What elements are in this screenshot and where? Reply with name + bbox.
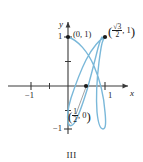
y-tick-label-neg1: −1: [53, 124, 62, 133]
x-axis-label: x: [130, 89, 134, 98]
fraction-sqrt3-over-2: √32: [112, 23, 122, 40]
annotation-point-0-1: (0, 1): [73, 30, 91, 39]
figure-caption: III: [0, 150, 143, 160]
x-tick-label-neg1: −1: [25, 91, 34, 100]
annotation-point-half-0: (12, 0): [68, 108, 91, 125]
y-axis-arrow: [66, 22, 71, 28]
parametric-curve-figure: y x 1 −1 −1 1 (0, 1) (√32, 1) (12, 0) II…: [0, 0, 143, 162]
x-axis-arrow: [123, 84, 129, 89]
annotation-point-sqrt3-over-2: (√32, 1): [108, 23, 135, 40]
annotation-rest-sqrt3: , 1: [122, 25, 131, 35]
annotation-rest-half: , 0: [78, 110, 87, 120]
fraction-one-half: 12: [72, 108, 78, 125]
point-marker-0-1: [66, 35, 70, 39]
y-axis-label: y: [59, 20, 63, 29]
close-paren-half: ): [87, 109, 91, 124]
point-marker-origin-crossing: [84, 84, 88, 88]
y-tick-label-1: 1: [58, 32, 62, 41]
fraction-denominator: 2: [112, 31, 122, 39]
close-paren-sqrt3: ): [131, 24, 135, 39]
x-tick-label-1: 1: [108, 91, 112, 100]
fraction-denominator-half: 2: [72, 116, 78, 124]
point-marker-sqrt3-2-1: [103, 35, 107, 39]
